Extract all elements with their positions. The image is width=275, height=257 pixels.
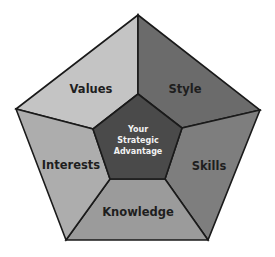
label-knowledge: Knowledge (102, 205, 174, 219)
pentagon-diagram: Values Style Skills Knowledge Interests … (0, 0, 275, 257)
label-interests: Interests (42, 158, 101, 172)
center-line-2: Strategic (117, 136, 159, 145)
label-skills: Skills (192, 159, 227, 173)
label-values: Values (70, 82, 113, 96)
center-line-1: Your (127, 125, 148, 134)
center-line-3: Advantage (114, 147, 163, 156)
label-style: Style (168, 82, 201, 96)
